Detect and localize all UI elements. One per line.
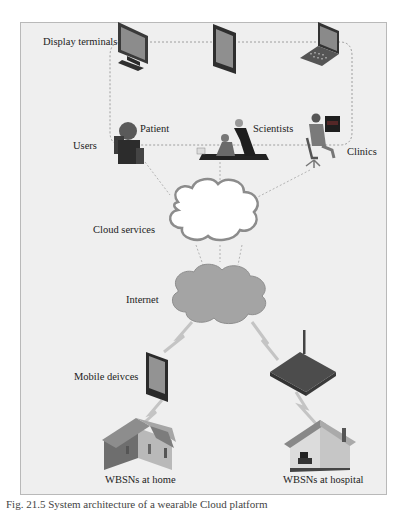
cloud-services-icon bbox=[170, 179, 258, 240]
internet-label: Internet bbox=[126, 295, 159, 306]
users-label: Users bbox=[73, 141, 97, 152]
desktop-monitor-icon bbox=[118, 22, 148, 71]
tablet-icon bbox=[213, 24, 236, 74]
display-terminals-label: Display terminals bbox=[43, 37, 117, 48]
wbsn-hospital-label: WBSNs at hospital bbox=[283, 475, 364, 486]
internet-cloud-icon bbox=[172, 264, 265, 323]
lightning-bolt-icon bbox=[252, 322, 278, 360]
patient-label: Patient bbox=[140, 124, 169, 135]
clinics-label: Clinics bbox=[347, 147, 377, 158]
mobile-device-icon bbox=[146, 352, 168, 402]
figure-caption: Fig. 21.5 System architecture of a weara… bbox=[6, 498, 267, 510]
wbsn-home-label: WBSNs at home bbox=[105, 475, 176, 486]
mobile-devices-label: Mobile deivces bbox=[74, 372, 138, 383]
home-icon bbox=[102, 418, 176, 470]
scientists-label: Scientists bbox=[253, 124, 293, 135]
lightning-bolt-icon bbox=[296, 392, 318, 426]
lightning-bolt-icon bbox=[164, 322, 192, 352]
laptop-icon bbox=[300, 22, 339, 66]
wireless-router-icon bbox=[270, 330, 336, 396]
hospital-icon bbox=[284, 420, 356, 472]
cloud-services-label: Cloud services bbox=[93, 225, 155, 236]
clinician-icon bbox=[306, 114, 340, 169]
